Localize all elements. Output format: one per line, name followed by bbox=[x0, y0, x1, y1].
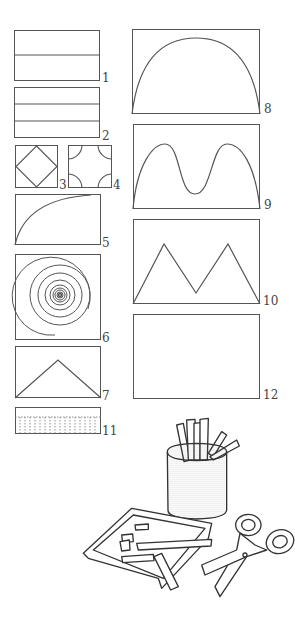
figure-6-label: 6 bbox=[102, 332, 110, 344]
figure-9-double-hump bbox=[133, 124, 260, 209]
figure-10-label: 10 bbox=[263, 295, 278, 307]
figure-1-label: 1 bbox=[102, 72, 110, 84]
figure-2-label: 2 bbox=[102, 130, 110, 142]
figure-12-label: 12 bbox=[263, 389, 278, 401]
figure-3-diamond bbox=[15, 145, 58, 188]
figure-9-label: 9 bbox=[264, 199, 272, 211]
figure-10-zigzag bbox=[133, 219, 260, 304]
figure-7-triangle bbox=[15, 346, 101, 398]
figure-3-label: 3 bbox=[59, 179, 67, 191]
figure-8-label: 8 bbox=[264, 103, 272, 115]
figure-2-lines bbox=[14, 87, 100, 138]
figure-12 bbox=[133, 314, 260, 399]
figure-4-label: 4 bbox=[113, 179, 121, 191]
figure-4-arcs bbox=[68, 145, 112, 188]
figure-5-label: 5 bbox=[102, 237, 110, 249]
figure-8-arch bbox=[132, 29, 260, 114]
figure-5-curve bbox=[15, 194, 101, 245]
figure-1-lines bbox=[14, 30, 100, 81]
craft-illustration bbox=[80, 410, 295, 625]
figure-7-label: 7 bbox=[102, 390, 110, 402]
figure-6-spiral bbox=[15, 254, 101, 340]
